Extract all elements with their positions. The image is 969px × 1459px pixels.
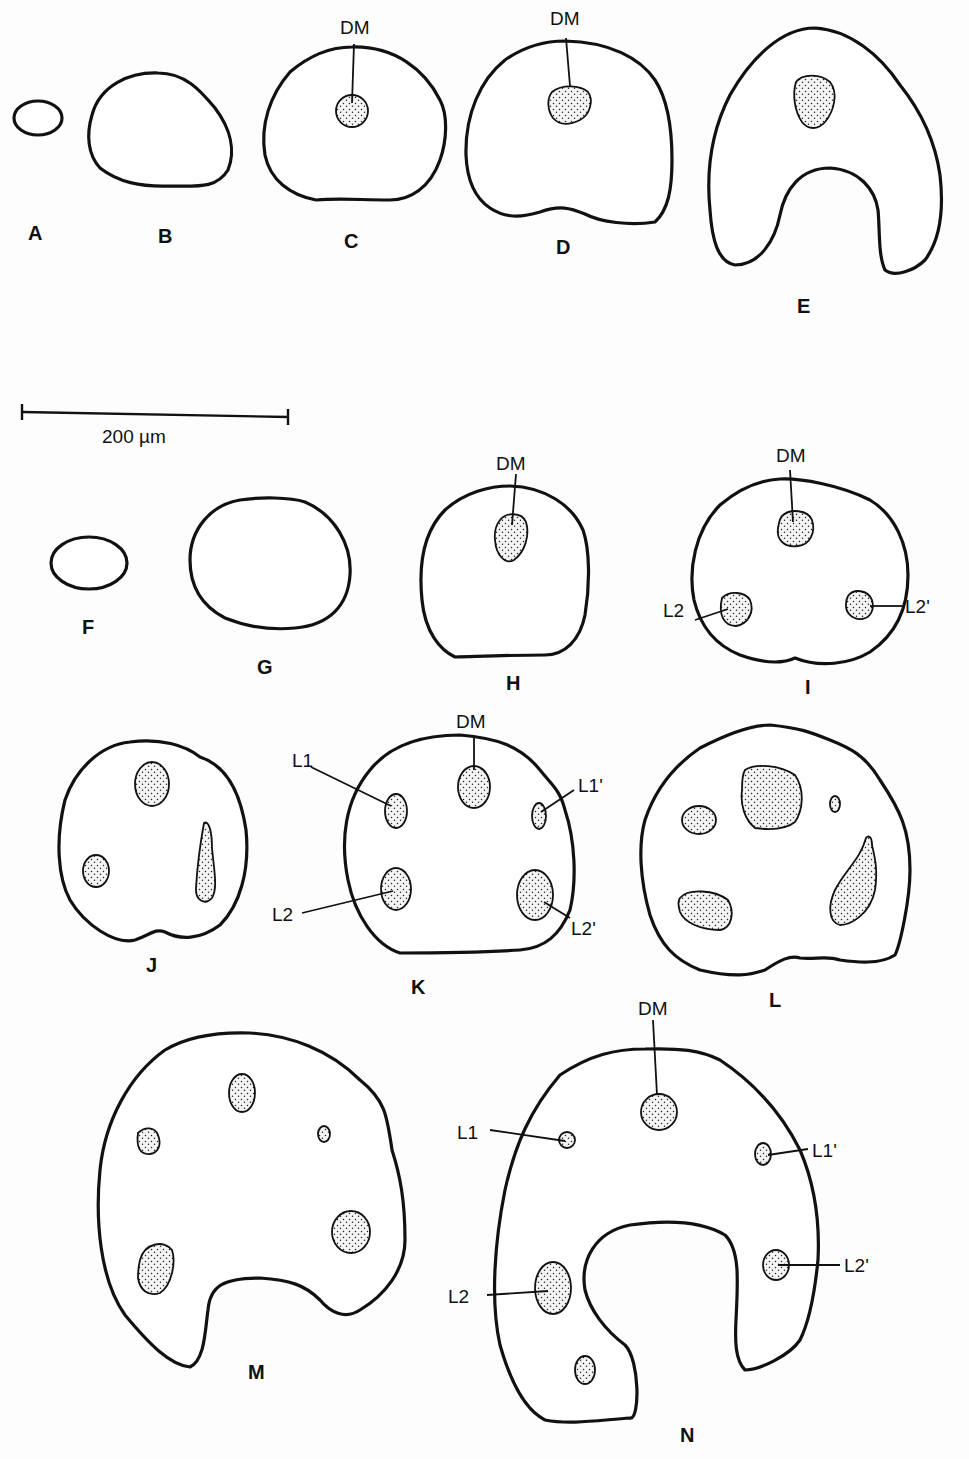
panel-f: F — [51, 537, 127, 638]
panel-label-l: L — [769, 989, 781, 1011]
l2-label: L2 — [663, 600, 684, 621]
dm-label: DM — [638, 998, 668, 1019]
l2-prime-label: L2' — [905, 596, 930, 617]
l2-prime-spot — [517, 870, 553, 920]
panel-i: DM L2 L2' I — [663, 445, 930, 698]
dm-spot — [458, 766, 490, 808]
spot — [135, 762, 169, 806]
figure: A B DM C DM D E 200 µm F — [0, 0, 969, 1459]
l2-label: L2 — [448, 1286, 469, 1307]
dm-label: DM — [496, 453, 526, 474]
panel-g: G — [190, 498, 350, 678]
l2-label: L2 — [272, 904, 293, 925]
spot — [682, 806, 716, 834]
l2-spot — [381, 868, 411, 910]
dm-label: DM — [456, 711, 486, 732]
panel-label-b: B — [158, 225, 172, 247]
scale-bar: 200 µm — [22, 404, 288, 447]
panel-label-f: F — [82, 616, 94, 638]
section-outline — [344, 735, 574, 953]
spot — [138, 1128, 160, 1154]
panel-label-h: H — [506, 672, 520, 694]
dm-spot — [641, 1094, 677, 1130]
l1-label: L1 — [292, 750, 313, 771]
panel-label-c: C — [344, 230, 358, 252]
section-outline — [709, 28, 942, 273]
scale-bar-label: 200 µm — [102, 426, 166, 447]
panel-l: L — [641, 725, 910, 1011]
l1-prime-spot — [532, 803, 546, 829]
spot — [742, 766, 802, 829]
panel-k: DM L1 L1' L2 L2' K — [272, 711, 603, 998]
panel-m: M — [98, 1033, 405, 1383]
l2-prime-spot — [846, 591, 873, 619]
panel-label-g: G — [257, 656, 273, 678]
spot — [830, 796, 840, 812]
l1-prime-label: L1' — [578, 775, 603, 796]
panel-label-e: E — [797, 295, 810, 317]
spot — [575, 1356, 595, 1384]
spot — [318, 1126, 330, 1142]
scale-bar-line — [22, 412, 288, 417]
section-outline — [421, 486, 589, 657]
spot — [332, 1211, 370, 1253]
panel-label-m: M — [248, 1361, 265, 1383]
l1-spot — [385, 794, 407, 828]
panel-j: J — [59, 741, 247, 976]
panel-e: E — [709, 28, 942, 317]
panel-h: DM H — [421, 453, 589, 694]
panel-label-d: D — [556, 236, 570, 258]
panel-label-i: I — [805, 676, 811, 698]
figure-drawing: A B DM C DM D E 200 µm F — [0, 0, 969, 1459]
section-outline — [51, 537, 127, 589]
panel-label-n: N — [680, 1424, 694, 1446]
panel-a: A — [14, 101, 62, 244]
l2-spot — [535, 1262, 571, 1314]
l1-label: L1 — [457, 1122, 478, 1143]
spot — [83, 855, 109, 887]
l2-prime-label: L2' — [571, 918, 596, 939]
panel-label-k: K — [411, 976, 426, 998]
dm-spot — [778, 511, 814, 546]
dm-label: DM — [550, 8, 580, 29]
spot — [229, 1074, 255, 1112]
section-outline — [14, 101, 62, 135]
panel-d: DM D — [466, 8, 672, 258]
section-outline — [190, 498, 350, 629]
l1-prime-label: L1' — [812, 1140, 837, 1161]
panel-c: DM C — [264, 17, 446, 252]
l2-prime-label: L2' — [844, 1255, 869, 1276]
panel-b: B — [89, 73, 232, 247]
section-outline — [692, 479, 908, 664]
panel-label-a: A — [28, 222, 42, 244]
section-outline — [89, 73, 232, 186]
dm-label: DM — [340, 17, 370, 38]
panel-n: DM L1 L1' L2 L2' N — [448, 998, 869, 1446]
panel-label-j: J — [146, 954, 157, 976]
dm-label: DM — [776, 445, 806, 466]
